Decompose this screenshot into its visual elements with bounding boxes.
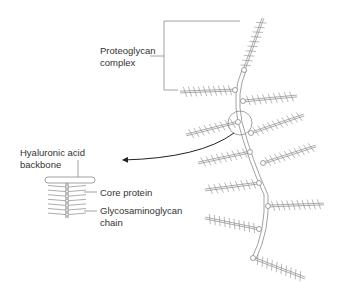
- label-core-protein: Core protein: [100, 187, 152, 199]
- label-proteoglycan-complex: Proteoglycan complex: [100, 45, 155, 68]
- hyaluronic-rod: [45, 177, 95, 183]
- label-glycosaminoglycan-chain: Glycosaminoglycan chain: [100, 205, 182, 228]
- proteoglycan-bracket: [150, 21, 240, 90]
- label-hyaluronic-acid-backbone: Hyaluronic acid backbone: [20, 147, 85, 170]
- proteoglycan-branches: [180, 18, 324, 282]
